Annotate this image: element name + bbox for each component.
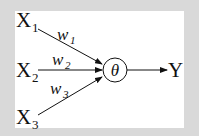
svg-text:X: X (16, 8, 31, 32)
svg-text:w: w (52, 50, 64, 69)
edge-x3 (38, 77, 102, 115)
output-y: Y (168, 58, 183, 82)
weight-w1: w 1 (57, 25, 76, 46)
svg-text:1: 1 (70, 34, 76, 46)
svg-text:θ: θ (111, 61, 119, 80)
svg-text:X: X (16, 105, 31, 129)
svg-text:2: 2 (65, 59, 71, 71)
svg-text:2: 2 (32, 70, 39, 85)
input-x1: X 1 (16, 8, 39, 35)
weight-w2: w 2 (52, 50, 71, 71)
svg-text:3: 3 (62, 88, 69, 100)
svg-text:X: X (16, 58, 31, 82)
svg-text:w: w (57, 25, 69, 44)
weight-w3: w 3 (50, 79, 69, 100)
threshold-node: θ (103, 58, 127, 82)
perceptron-diagram: X 1 X 2 X 3 w 1 w 2 w 3 θ Y (0, 0, 199, 136)
svg-text:3: 3 (32, 117, 39, 132)
input-x2: X 2 (16, 58, 39, 85)
input-x3: X 3 (16, 105, 39, 132)
svg-text:w: w (50, 79, 62, 98)
svg-text:1: 1 (32, 20, 39, 35)
